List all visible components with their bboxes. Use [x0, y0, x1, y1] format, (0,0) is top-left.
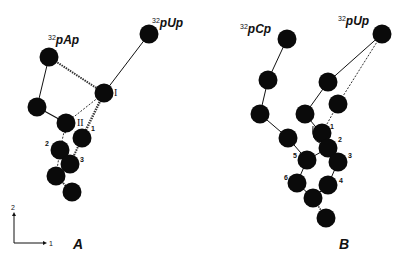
label-pup: 32pUp: [338, 14, 369, 28]
nucleotide-node-4: [319, 176, 338, 195]
diagram-canvas: 32pAp 32pUp I II 1 2 3 A 1 2: [0, 0, 409, 264]
nucleotide-node-ii: [57, 114, 76, 133]
axis-indicator: 1 2: [11, 204, 53, 247]
arrowhead-icon: [12, 212, 16, 216]
nucleotide-node: [63, 183, 82, 202]
dashed-bond: [49, 57, 104, 93]
nucleotide-node: [28, 98, 47, 117]
label-site-ii: II: [77, 117, 84, 128]
nucleotide-node: [304, 189, 323, 208]
axis-label-1: 1: [49, 240, 53, 247]
nucleotide-node: [317, 209, 336, 228]
nucleotide-node: [47, 167, 66, 186]
label-3: 3: [348, 152, 352, 159]
label-1: 1: [91, 125, 95, 132]
nucleotide-node-i: [95, 84, 114, 103]
nucleotide-node-pap: [40, 48, 59, 67]
label-1: 1: [330, 123, 334, 130]
label-2: 2: [45, 140, 49, 147]
nucleotide-node: [319, 73, 338, 92]
arrowhead-icon: [43, 241, 47, 245]
nucleotide-node-6: [288, 174, 307, 193]
nucleotide-node: [259, 71, 278, 90]
bond: [104, 34, 149, 93]
nucleotide-node: [279, 129, 298, 148]
panel-b: 32pCp 32pUp 1 2 5 3 6 4 B: [240, 14, 392, 252]
nucleotide-node-5: [298, 151, 317, 170]
axis-label-2: 2: [11, 204, 15, 211]
nucleotide-node-pcp: [278, 30, 297, 49]
nucleotide-node-1: [73, 129, 92, 148]
bond: [328, 34, 382, 82]
panel-label-b: B: [339, 236, 349, 252]
nucleotide-node: [329, 95, 348, 114]
label-pup: 32pUp: [152, 16, 183, 30]
label-pap: 32pAp: [48, 33, 79, 47]
nucleotide-node: [251, 105, 270, 124]
label-2: 2: [338, 136, 342, 143]
label-6: 6: [284, 174, 288, 181]
label-4: 4: [339, 177, 343, 184]
label-5: 5: [293, 152, 297, 159]
dashed-bond: [338, 34, 382, 104]
panel-label-a: A: [72, 236, 83, 252]
panel-a: 32pAp 32pUp I II 1 2 3 A: [28, 16, 184, 252]
label-3: 3: [80, 156, 84, 163]
label-pcp: 32pCp: [240, 22, 271, 36]
nucleotide-node-pup: [140, 25, 159, 44]
nucleotide-node-pup: [373, 25, 392, 44]
nucleotide-node-3: [329, 153, 348, 172]
label-site-i: I: [114, 87, 117, 98]
nucleotide-node: [296, 105, 315, 124]
